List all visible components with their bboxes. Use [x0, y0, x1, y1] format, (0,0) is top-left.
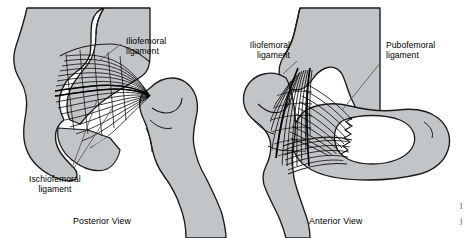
caption-anterior-view: Anterior View	[309, 216, 362, 226]
label-line-2: ligament	[29, 184, 81, 194]
label-line-1: Ischiofemoral	[29, 174, 81, 184]
caption-posterior-view: Posterior View	[73, 216, 131, 226]
hip-ligament-figure: Iliofemoral ligament Ischiofemoral ligam…	[0, 0, 466, 238]
label-pubofemoral-anterior: Pubofemoral ligament	[386, 40, 435, 61]
label-line-1: Iliofemoral	[171, 40, 290, 50]
label-line-1: Iliofemoral	[126, 36, 166, 46]
anatomy-illustration	[0, 0, 466, 238]
femur-posterior-shape	[140, 78, 226, 238]
label-line-2: ligament	[386, 50, 435, 60]
label-line-2: ligament	[171, 50, 290, 60]
label-ischiofemoral-posterior: Ischiofemoral ligament	[29, 174, 81, 195]
corner-mark-1: l	[460, 202, 463, 212]
label-line-1: Pubofemoral	[386, 40, 435, 50]
label-line-2: ligament	[126, 46, 166, 56]
label-iliofemoral-posterior: Iliofemoral ligament	[126, 36, 166, 57]
corner-mark-2: j	[460, 216, 463, 226]
label-iliofemoral-anterior: Iliofemoral ligament	[171, 40, 290, 61]
